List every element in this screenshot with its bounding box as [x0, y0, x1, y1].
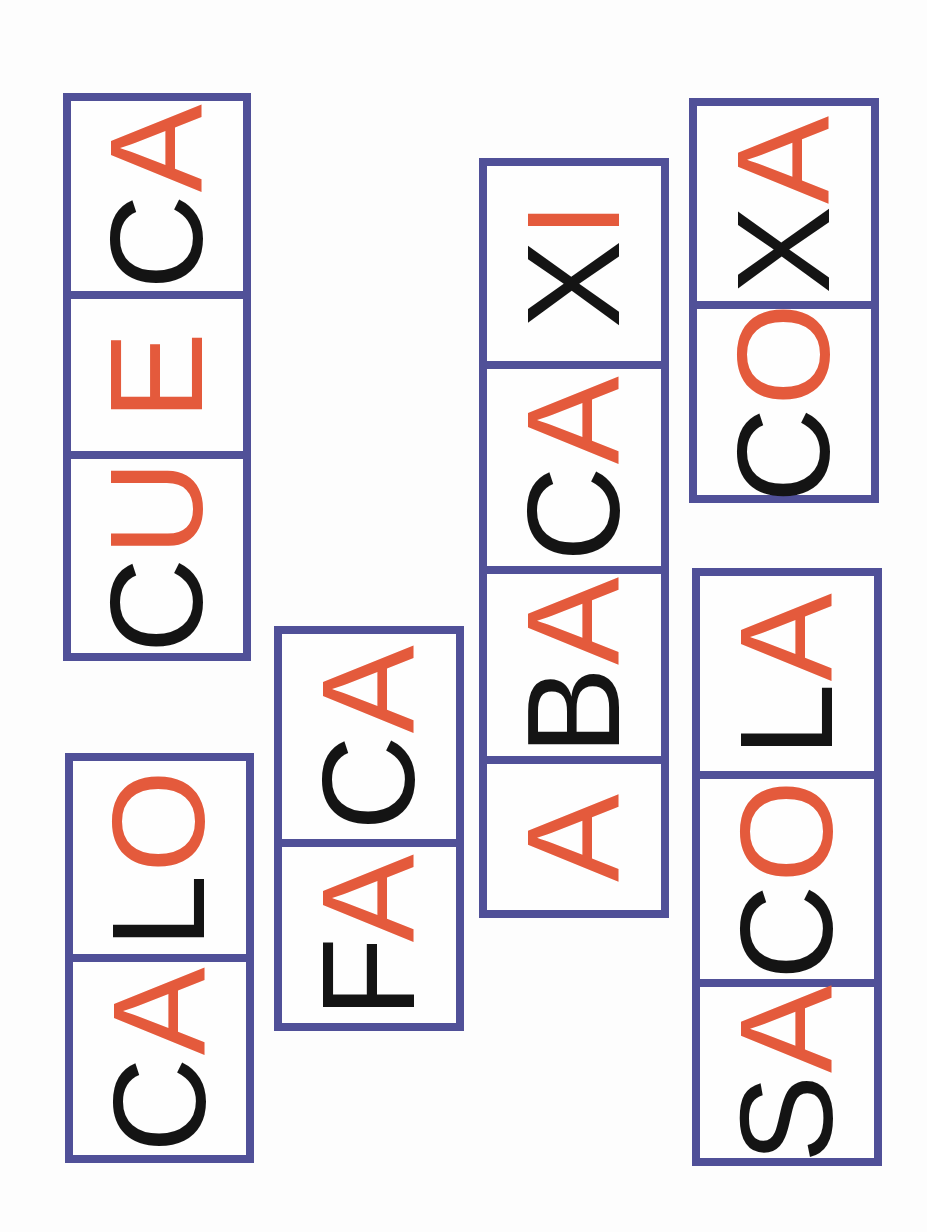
- vowel: O: [710, 301, 857, 406]
- word-card-coxa: XA CO: [689, 98, 879, 503]
- consonant: C: [83, 192, 230, 289]
- word-card-calo: LO CA: [65, 753, 254, 1163]
- vowel: I: [500, 199, 647, 238]
- vowel: A: [500, 374, 647, 464]
- vowel: O: [713, 778, 860, 883]
- syllable-card-sa: SA: [700, 979, 874, 1158]
- consonant: B: [500, 665, 647, 755]
- word-card-sacola: LA CO SA: [692, 568, 882, 1166]
- consonant: C: [710, 406, 857, 503]
- syllable-card-xi: XI: [487, 166, 661, 361]
- vowel: A: [500, 792, 647, 882]
- vowel: U: [83, 459, 230, 556]
- syllable-card-co: CO: [697, 301, 871, 495]
- consonant: C: [713, 883, 860, 980]
- syllable-card-e: E: [71, 291, 243, 451]
- word-card-cueca: CA E CU: [63, 93, 251, 661]
- vowel: A: [83, 102, 230, 192]
- syllable-card-lo: LO: [73, 761, 246, 954]
- vowel: A: [86, 965, 233, 1055]
- syllable-card-a: A: [487, 756, 661, 910]
- vowel: A: [295, 643, 442, 733]
- syllable-card-fa: FA: [282, 839, 456, 1023]
- consonant: C: [83, 556, 230, 653]
- vowel: A: [713, 982, 860, 1072]
- syllable-card-ba: BA: [487, 566, 661, 756]
- vowel: E: [83, 330, 230, 420]
- vowel: A: [295, 852, 442, 942]
- syllable-card-ca: CA: [71, 101, 243, 291]
- consonant: L: [713, 681, 860, 756]
- syllable-card-cu: CU: [71, 451, 243, 653]
- syllable-card-co: CO: [700, 771, 874, 979]
- word-card-abacaxi: XI CA BA A: [479, 158, 669, 918]
- consonant: C: [295, 733, 442, 830]
- vowel: A: [713, 591, 860, 681]
- vowel: O: [86, 767, 233, 872]
- consonant: C: [500, 464, 647, 561]
- syllable-card-ca: CA: [487, 361, 661, 566]
- consonant: X: [710, 204, 857, 294]
- consonant: C: [86, 1055, 233, 1152]
- consonant: S: [713, 1073, 860, 1163]
- consonant: L: [86, 872, 233, 947]
- vowel: A: [500, 575, 647, 665]
- syllable-card-la: LA: [700, 576, 874, 771]
- vowel: A: [710, 113, 857, 203]
- consonant: F: [295, 942, 442, 1017]
- syllable-card-ca: CA: [282, 634, 456, 839]
- consonant: X: [500, 238, 647, 328]
- syllable-card-ca: CA: [73, 954, 246, 1155]
- syllable-card-xa: XA: [697, 106, 871, 301]
- word-card-faca: CA FA: [274, 626, 464, 1031]
